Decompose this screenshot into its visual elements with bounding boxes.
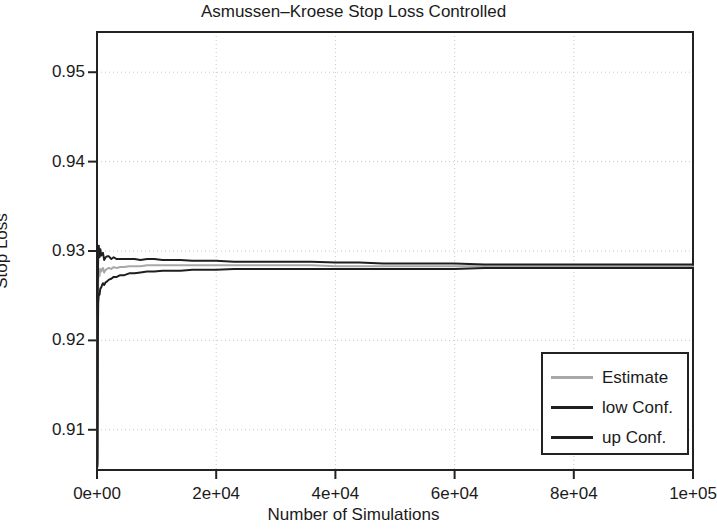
y-tick-label: 0.95: [39, 62, 85, 82]
x-tick-label: 0e+00: [73, 484, 121, 504]
x-tick-label: 8e+04: [550, 484, 598, 504]
y-tick-label: 0.91: [39, 420, 85, 440]
legend-label: up Conf.: [602, 429, 666, 446]
x-tick-label: 6e+04: [431, 484, 479, 504]
legend-line-swatch: [551, 376, 593, 379]
legend-item: low Conf.: [551, 392, 673, 422]
y-axis-title: Stop Loss: [0, 213, 12, 289]
x-tick-label: 1e+05: [669, 484, 717, 504]
legend: Estimatelow Conf.up Conf.: [541, 352, 689, 455]
legend-label: Estimate: [602, 369, 668, 386]
x-tick-label: 2e+04: [192, 484, 240, 504]
y-tick-label: 0.92: [39, 330, 85, 350]
legend-label: low Conf.: [602, 399, 673, 416]
legend-item: up Conf.: [551, 422, 666, 452]
x-tick-label: 4e+04: [312, 484, 360, 504]
legend-line-swatch: [551, 406, 593, 409]
y-tick-label: 0.94: [39, 152, 85, 172]
x-axis-title: Number of Simulations: [0, 505, 707, 525]
legend-line-swatch: [551, 436, 593, 439]
legend-item: Estimate: [551, 362, 668, 392]
y-tick-label: 0.93: [39, 241, 85, 261]
